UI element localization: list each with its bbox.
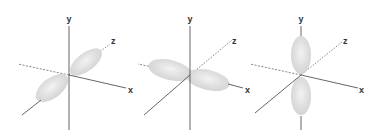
panel-px: y x z [138,14,250,130]
x-axis-label: x [128,85,133,95]
p-orbitals-diagram: y x z y x z y x z [0,0,368,137]
z-axis-negative [144,75,190,115]
z-axis-label: z [232,36,237,46]
x-axis [69,75,126,88]
panel-pz: y x z [18,14,133,130]
x-axis [228,84,243,88]
z-axis-negative [22,100,41,115]
x-axis-label: x [245,85,250,95]
x-axis-label: x [359,85,364,95]
z-axis-label: z [343,36,348,46]
x-axis [301,75,358,88]
x-axis-negative [18,64,69,75]
panel-py: y x z [250,14,364,130]
y-axis-label: y [188,14,193,24]
z-axis-label: z [111,36,116,46]
y-axis-label: y [67,14,72,24]
y-axis-label: y [299,14,304,24]
orbital-lobes-x [146,55,231,94]
